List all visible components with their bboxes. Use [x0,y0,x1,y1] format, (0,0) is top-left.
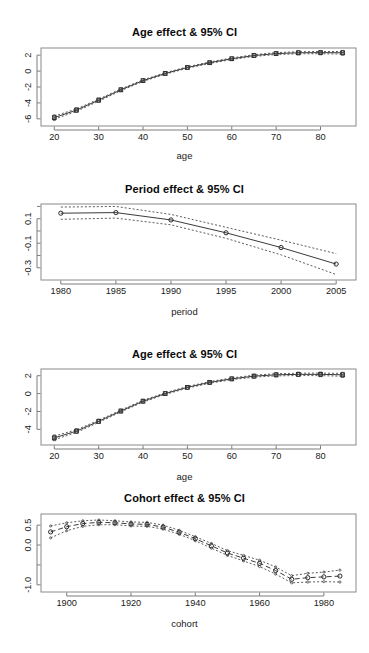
svg-text:20: 20 [49,132,59,142]
svg-text:1920: 1920 [121,598,141,608]
plot-area-cohort: 19001920194019601980-1.00.00.5 [0,508,369,620]
svg-text:0.5: 0.5 [23,519,33,532]
svg-text:0.0: 0.0 [23,539,33,552]
svg-text:-4: -4 [23,99,33,107]
svg-text:1980: 1980 [314,598,334,608]
svg-text:1980: 1980 [51,286,71,296]
panel-title: Period effect & 95% CI [0,183,369,195]
figure-page: Age effect & 95% CI 20304050607080-6-4-2… [0,0,369,653]
panel-period-effect: Period effect & 95% CI 19801985199019952… [0,160,369,325]
svg-text:-4: -4 [23,425,33,433]
svg-text:80: 80 [315,132,325,142]
svg-text:2000: 2000 [271,286,291,296]
svg-text:30: 30 [94,132,104,142]
svg-text:2: 2 [23,53,33,58]
svg-text:-2: -2 [23,407,33,415]
svg-text:-0.3: -0.3 [23,260,33,276]
svg-text:1900: 1900 [56,598,76,608]
svg-text:0.1: 0.1 [23,212,33,225]
plot-area-age-top: 20304050607080-6-4-202 [0,42,369,152]
svg-text:0: 0 [23,69,33,74]
svg-text:-0.1: -0.1 [23,235,33,251]
svg-text:2005: 2005 [326,286,346,296]
svg-text:70: 70 [271,451,281,461]
svg-text:1985: 1985 [106,286,126,296]
svg-text:-1.0: -1.0 [23,577,33,593]
svg-text:1990: 1990 [161,286,181,296]
svg-text:40: 40 [138,451,148,461]
svg-text:30: 30 [94,451,104,461]
x-axis-title: age [0,471,369,482]
svg-text:80: 80 [315,451,325,461]
x-axis-title: cohort [0,618,369,629]
plot-area-period: 198019851990199520002005-0.3-0.10.1 [0,198,369,308]
panel-title: Age effect & 95% CI [0,348,369,360]
svg-text:1960: 1960 [249,598,269,608]
svg-text:50: 50 [182,132,192,142]
plot-area-age-bottom: 20304050607080-4-202 [0,363,369,473]
panel-title: Cohort effect & 95% CI [0,492,369,504]
panel-cohort-effect: Cohort effect & 95% CI 19001920194019601… [0,486,369,653]
panel-age-effect-top: Age effect & 95% CI 20304050607080-6-4-2… [0,0,369,170]
svg-text:2: 2 [23,373,33,378]
svg-text:60: 60 [227,451,237,461]
svg-text:-6: -6 [23,115,33,123]
svg-text:-2: -2 [23,83,33,91]
panel-title: Age effect & 95% CI [0,26,369,38]
svg-text:50: 50 [182,451,192,461]
panel-age-effect-bottom: Age effect & 95% CI 20304050607080-4-202… [0,325,369,490]
svg-text:1940: 1940 [185,598,205,608]
svg-text:20: 20 [49,451,59,461]
svg-text:0: 0 [23,391,33,396]
x-axis-title: period [0,306,369,317]
svg-text:40: 40 [138,132,148,142]
svg-text:1995: 1995 [216,286,236,296]
svg-text:70: 70 [271,132,281,142]
svg-text:60: 60 [227,132,237,142]
